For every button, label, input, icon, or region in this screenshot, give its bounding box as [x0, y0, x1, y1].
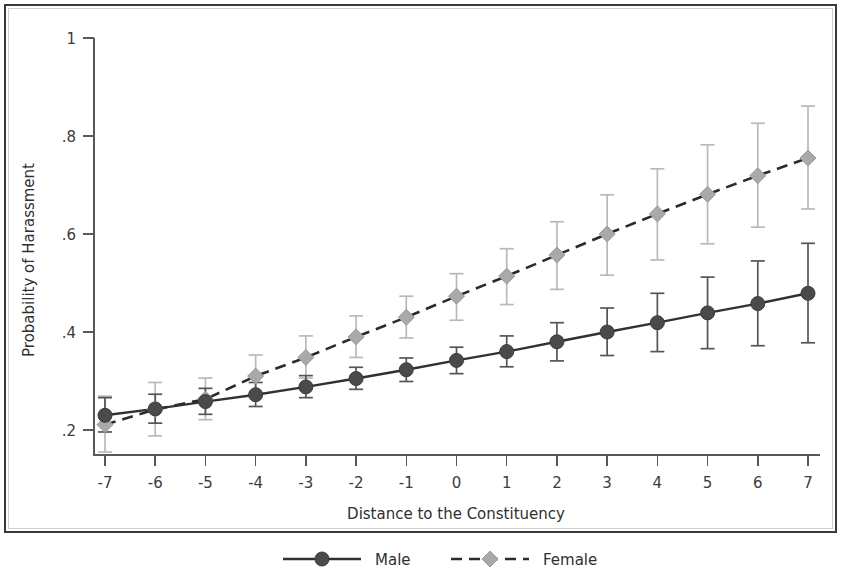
data-point-marker	[751, 297, 765, 311]
x-tick-label: 2	[552, 474, 562, 492]
data-point-marker	[600, 325, 614, 339]
legend-entry[interactable]: Male	[283, 551, 411, 569]
y-tick-labels: .2.4.6.81	[62, 30, 76, 440]
data-point-marker	[800, 150, 816, 166]
x-tick-label: -5	[198, 474, 213, 492]
data-point-marker	[198, 395, 212, 409]
x-tick-label: -4	[248, 474, 263, 492]
y-tick-label: .6	[62, 226, 76, 244]
legend-label: Female	[543, 551, 597, 569]
data-point-marker	[98, 408, 112, 422]
data-point-marker	[450, 353, 464, 367]
x-tick-labels: -7-6-5-4-3-2-101234567	[98, 474, 813, 492]
data-point-marker	[750, 168, 766, 184]
data-point-marker	[550, 335, 564, 349]
data-point-marker	[348, 329, 364, 345]
x-tick-label: 0	[452, 474, 462, 492]
data-point-marker	[701, 306, 715, 320]
data-point-marker	[349, 372, 363, 386]
legend-entry[interactable]: Female	[451, 551, 597, 569]
data-point-marker	[249, 388, 263, 402]
data-point-marker	[649, 206, 665, 222]
data-point-marker	[500, 345, 514, 359]
chart-legend: MaleFemale	[283, 551, 597, 569]
x-tick-label: -2	[349, 474, 364, 492]
axis-spine	[94, 38, 820, 455]
legend-marker-sample	[482, 551, 498, 567]
x-tick-label: 4	[653, 474, 663, 492]
data-point-marker	[650, 316, 664, 330]
data-point-marker	[801, 286, 815, 300]
x-tick-label: -3	[298, 474, 313, 492]
data-point-marker	[399, 363, 413, 377]
x-tick-label: -6	[148, 474, 163, 492]
x-tick-label: 1	[502, 474, 512, 492]
y-tick-label: .2	[62, 422, 76, 440]
data-point-marker	[700, 186, 716, 202]
data-point-marker	[599, 226, 615, 242]
data-point-marker	[148, 402, 162, 416]
x-tick-label: -1	[399, 474, 414, 492]
data-point-marker	[449, 288, 465, 304]
legend-label: Male	[375, 551, 411, 569]
x-tick-label: -7	[98, 474, 113, 492]
x-tick-label: 5	[703, 474, 713, 492]
x-axis-title: Distance to the Constituency	[347, 505, 565, 523]
y-tick-label: .4	[62, 324, 76, 342]
legend-marker-sample	[315, 552, 329, 566]
probability-of-harassment-chart: .2.4.6.81 -7-6-5-4-3-2-101234567 Probabi…	[0, 0, 845, 584]
x-tick-label: 6	[753, 474, 763, 492]
data-point-marker	[549, 247, 565, 263]
data-point-marker	[299, 380, 313, 394]
y-tick-label: 1	[66, 30, 76, 48]
y-tick-label: .8	[62, 128, 76, 146]
data-point-marker	[398, 309, 414, 325]
x-tick-label: 3	[602, 474, 612, 492]
data-point-marker	[298, 349, 314, 365]
figure-container: .2.4.6.81 -7-6-5-4-3-2-101234567 Probabi…	[0, 0, 845, 584]
data-point-marker	[499, 268, 515, 284]
x-tick-label: 7	[803, 474, 813, 492]
y-axis-title: Probability of Harassment	[20, 163, 38, 357]
